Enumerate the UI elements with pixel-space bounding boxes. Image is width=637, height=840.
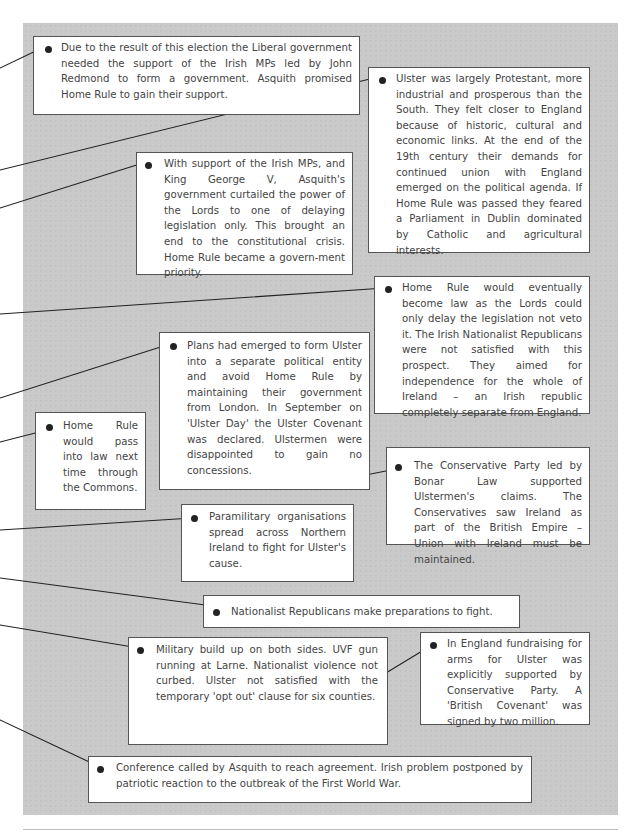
bullet-icon — [395, 464, 402, 471]
note-text: The Conservative Party led by Bonar Law … — [414, 458, 582, 567]
note-text: Conference called by Asquith to reach ag… — [116, 760, 523, 791]
note-text: Due to the result of this election the L… — [61, 40, 352, 102]
note-text: Home Rule would eventually become law as… — [402, 280, 582, 420]
note-text: Military build up on both sides. UVF gun… — [156, 642, 378, 704]
note-england-fundraising: In England fundraising for arms for Ulst… — [420, 632, 590, 725]
note-lords-curtailed: With support of the Irish MPs, and King … — [136, 152, 353, 275]
note-text: In England fundraising for arms for Ulst… — [447, 636, 582, 730]
note-nationalist-preparations: Nationalist Republicans make preparation… — [203, 595, 520, 628]
note-text: With support of the Irish MPs, and King … — [164, 156, 345, 281]
note-military-buildup: Military build up on both sides. UVF gun… — [128, 637, 388, 745]
bullet-icon — [385, 286, 392, 293]
note-ulster-protestant: Ulster was largely Protestant, more indu… — [368, 67, 590, 253]
note-text: Nationalist Republicans make preparation… — [231, 604, 512, 620]
bullet-icon — [379, 77, 386, 84]
note-home-rule-commons: Home Rule would pass into law next time … — [35, 412, 146, 510]
note-text: Paramilitary organisations spread across… — [209, 509, 346, 571]
bullet-icon — [170, 343, 177, 350]
note-conservative-party: The Conservative Party led by Bonar Law … — [386, 447, 590, 545]
bullet-icon — [45, 46, 52, 53]
bullet-icon — [191, 515, 198, 522]
bullet-icon — [137, 647, 144, 654]
note-text: Home Rule would pass into law next time … — [63, 418, 138, 496]
page: Due to the result of this election the L… — [0, 0, 637, 840]
bullet-icon — [46, 424, 53, 431]
note-home-rule-eventually: Home Rule would eventually become law as… — [374, 276, 590, 414]
bullet-icon — [145, 162, 152, 169]
note-paramilitary: Paramilitary organisations spread across… — [181, 504, 354, 582]
note-ulster-plans: Plans had emerged to form Ulster into a … — [159, 332, 370, 490]
note-conference: Conference called by Asquith to reach ag… — [88, 756, 532, 803]
bullet-icon — [213, 609, 220, 616]
note-election-result: Due to the result of this election the L… — [33, 36, 360, 115]
note-text: Plans had emerged to form Ulster into a … — [187, 338, 362, 478]
bullet-icon — [97, 766, 104, 773]
bullet-icon — [430, 642, 437, 649]
page-divider — [23, 829, 618, 830]
note-text: Ulster was largely Protestant, more indu… — [396, 71, 582, 258]
